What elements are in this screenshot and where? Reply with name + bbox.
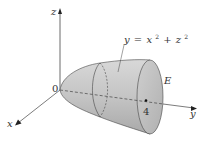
x-axis-label: x <box>7 118 13 129</box>
x-axis-arrow-icon <box>15 120 22 126</box>
origin-label: 0 <box>52 83 58 94</box>
surface-equation: y = x 2 + z 2 <box>123 30 188 45</box>
z-axis-arrow-icon <box>58 8 62 14</box>
end-cap <box>137 60 163 134</box>
paraboloid-surface <box>60 60 150 134</box>
y-axis-label: y <box>189 108 196 119</box>
z-axis-label: z <box>50 6 57 17</box>
region-label-E: E <box>163 75 172 86</box>
paraboloid-diagram: z 0 x y E 4 y = x 2 + z 2 <box>0 0 204 147</box>
x-axis <box>18 90 60 123</box>
y-tick-4: 4 <box>143 106 149 117</box>
y4-point <box>145 99 148 102</box>
